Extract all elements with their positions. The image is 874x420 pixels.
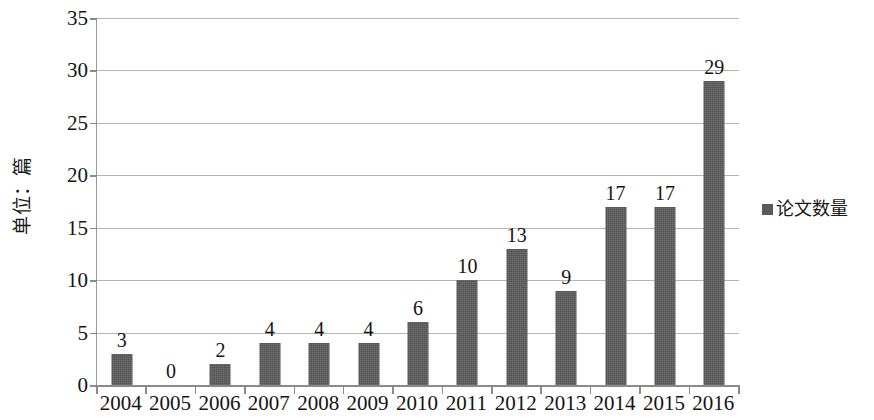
x-axis-tick-label: 2014 [594,392,636,415]
y-axis-tick-label: 0 [44,375,88,396]
x-axis-tick-label: 2013 [544,392,586,415]
y-axis-tickmark [90,280,97,282]
x-axis-tickmark [738,385,740,394]
bar-group[interactable]: 4 [295,18,344,385]
y-axis-tickmark [90,70,97,72]
y-axis-tick-label: 30 [44,60,88,81]
bar-group[interactable]: 17 [640,18,689,385]
x-axis-tick-labels: 2004200520062007200820092010201120122013… [96,392,738,420]
bar[interactable] [506,249,527,385]
x-axis-tick-label: 2015 [643,392,685,415]
y-axis-tick-label: 5 [44,322,88,343]
bar[interactable] [605,207,626,385]
bar-value-label: 0 [166,361,176,381]
x-axis-tick-label: 2008 [297,392,339,415]
bar[interactable] [210,364,231,385]
bar-value-label: 10 [457,256,477,276]
x-axis-tick-label: 2005 [149,392,191,415]
bar[interactable] [407,322,428,385]
bar-value-label: 17 [655,183,675,203]
bar[interactable] [654,207,675,385]
x-axis-tick-label: 2009 [347,392,389,415]
legend: 论文数量 [762,200,848,218]
bar[interactable] [309,343,330,385]
bar-value-label: 4 [314,319,324,339]
bar-group[interactable]: 3 [97,18,146,385]
bar[interactable] [259,343,280,385]
bar[interactable] [111,354,132,385]
bar-group[interactable]: 13 [492,18,541,385]
bar-value-label: 2 [215,340,225,360]
x-axis-tick-label: 2007 [248,392,290,415]
bar-value-label: 3 [117,330,127,350]
x-axis-tick-label: 2012 [495,392,537,415]
y-axis-tickmark [90,228,97,230]
bar-value-label: 4 [265,319,275,339]
bar-group[interactable]: 10 [443,18,492,385]
y-axis-tick-label: 25 [44,112,88,133]
square-marker-icon [762,204,773,215]
y-axis-tick-labels: 05101520253035 [44,0,88,390]
bar[interactable] [704,81,725,385]
y-axis-tickmark [90,175,97,177]
x-axis-tick-label: 2004 [100,392,142,415]
plot-area: 302444610139171729 [96,18,739,385]
bar-value-label: 17 [606,183,626,203]
x-axis-tick-label: 2006 [198,392,240,415]
y-axis-title-text: 单位：篇 [7,156,34,234]
bar-group[interactable]: 2 [196,18,245,385]
bar[interactable] [556,291,577,385]
bar-value-label: 13 [507,225,527,245]
bar[interactable] [457,280,478,385]
y-axis-tick-label: 20 [44,165,88,186]
legend-label: 论文数量 [776,200,848,218]
y-axis-tickmark [90,123,97,125]
bar-value-label: 4 [364,319,374,339]
y-axis-tick-label: 15 [44,217,88,238]
bar-value-label: 9 [561,267,571,287]
bar-group[interactable]: 17 [591,18,640,385]
bar-chart: 单位：篇 05101520253035 302444610139171729 2… [0,0,874,420]
y-axis-title: 单位：篇 [0,0,40,390]
x-axis-tick-label: 2016 [692,392,734,415]
bar-group[interactable]: 6 [393,18,442,385]
bars-layer: 302444610139171729 [97,18,739,385]
y-axis-tick-label: 35 [44,8,88,29]
bar[interactable] [358,343,379,385]
y-axis-tickmark [90,333,97,335]
bar-group[interactable]: 0 [146,18,195,385]
bar-value-label: 29 [704,57,724,77]
bar-value-label: 6 [413,298,423,318]
x-axis-tick-label: 2011 [446,392,487,415]
bar-group[interactable]: 4 [245,18,294,385]
bar-group[interactable]: 29 [690,18,739,385]
y-axis-tickmark [90,18,97,20]
bar-group[interactable]: 9 [541,18,590,385]
y-axis-tick-label: 10 [44,270,88,291]
x-axis-tick-label: 2010 [396,392,438,415]
bar-group[interactable]: 4 [344,18,393,385]
